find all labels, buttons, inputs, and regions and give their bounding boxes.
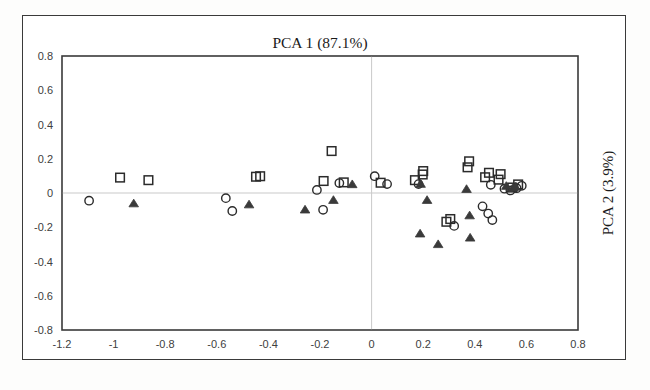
y-tick-label: 0.8: [38, 50, 53, 62]
y-tick-label: 0.2: [38, 153, 53, 165]
chart-title: PCA 1 (87.1%): [272, 34, 367, 52]
x-tick-label: -0.4: [259, 338, 278, 350]
x-tick-label: 0.2: [416, 338, 431, 350]
y-tick-label: -0.2: [34, 221, 53, 233]
y-tick-label: -0.6: [34, 290, 53, 302]
right-axis-title: PCA 2 (3.9%): [600, 151, 617, 236]
x-tick-label: 0.8: [570, 338, 585, 350]
y-axis-tick-labels: -0.8-0.6-0.4-0.200.20.40.60.8: [34, 50, 53, 336]
y-tick-label: -0.8: [34, 324, 53, 336]
x-tick-label: 0: [369, 338, 375, 350]
x-tick-label: -0.6: [207, 338, 226, 350]
x-tick-label: -1.2: [53, 338, 72, 350]
x-tick-label: -0.2: [311, 338, 330, 350]
y-tick-label: 0.6: [38, 84, 53, 96]
x-tick-label: -0.8: [156, 338, 175, 350]
y-tick-label: 0.4: [38, 119, 53, 131]
y-tick-label: 0: [47, 187, 53, 199]
x-tick-label: -1: [109, 338, 119, 350]
x-tick-label: 0.6: [519, 338, 534, 350]
figure-container: -1.2-1-0.8-0.6-0.4-0.200.20.40.60.8-0.8-…: [0, 0, 650, 390]
scatter-chart[interactable]: -1.2-1-0.8-0.6-0.4-0.200.20.40.60.8-0.8-…: [0, 0, 650, 390]
x-axis-tick-labels: -1.2-1-0.8-0.6-0.4-0.200.20.40.60.8: [53, 338, 586, 350]
y-tick-label: -0.4: [34, 256, 53, 268]
x-tick-label: 0.4: [467, 338, 482, 350]
